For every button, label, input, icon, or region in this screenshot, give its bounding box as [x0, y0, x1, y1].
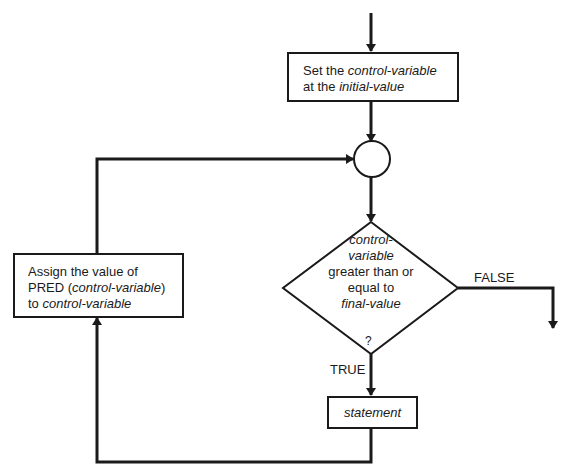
decision-line-5: final-value [300, 296, 442, 312]
init-line-2-prefix: at the [303, 79, 339, 94]
update-line-1: Assign the value of [28, 264, 182, 280]
decision-line-2: variable [300, 248, 442, 264]
statement-text: statement [344, 405, 401, 420]
update-line-2-prefix: PRED ( [28, 280, 72, 295]
update-line-3-prefix: to [28, 296, 42, 311]
init-line-2-italic: initial-value [339, 79, 404, 94]
decision-question-mark: ? [365, 334, 372, 348]
true-label: TRUE [330, 362, 365, 377]
flowchart-canvas [0, 0, 563, 472]
decision-line-3: greater than or [300, 264, 442, 280]
update-line-3: to control-variable [28, 296, 182, 312]
update-line-2-italic: control-variable [72, 280, 161, 295]
init-box: Set the control-variable at the initial-… [287, 52, 459, 102]
false-path-arrow [458, 288, 553, 328]
decision-line-1: control- [300, 232, 442, 248]
false-label: FALSE [474, 270, 514, 285]
init-line-1-prefix: Set the [303, 63, 348, 78]
junction-circle [354, 141, 390, 177]
statement-to-update-arrow [97, 318, 371, 462]
decision-text: control- variable greater than or equal … [300, 232, 442, 312]
init-line-1-italic: control-variable [348, 63, 437, 78]
update-line-3-italic: control-variable [42, 296, 131, 311]
init-line-1: Set the control-variable [303, 63, 457, 79]
update-line-2-suffix: ) [161, 280, 165, 295]
decision-line-4: equal to [300, 280, 442, 296]
update-box: Assign the value of PRED (control-variab… [13, 253, 184, 318]
statement-box: statement [327, 396, 418, 429]
init-line-2: at the initial-value [303, 79, 457, 95]
update-line-2: PRED (control-variable) [28, 280, 182, 296]
